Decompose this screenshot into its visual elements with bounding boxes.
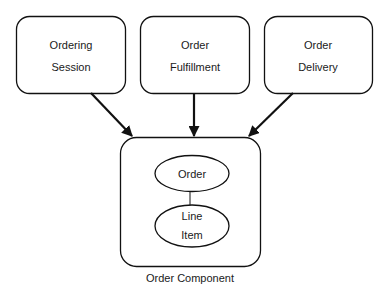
node-label-line1: Order bbox=[304, 39, 332, 51]
node-order[interactable]: Order bbox=[155, 156, 229, 192]
node-box bbox=[17, 17, 126, 94]
node-label-line2: Fulfillment bbox=[170, 61, 220, 73]
node-box bbox=[265, 17, 373, 94]
node-ordering-session[interactable]: Ordering Session bbox=[17, 17, 126, 94]
component-caption: Order Component bbox=[146, 272, 234, 284]
arrow-order-delivery-to-component bbox=[249, 93, 293, 136]
node-label-line1: Order bbox=[178, 168, 206, 180]
node-box bbox=[141, 17, 250, 94]
node-label-line2: Delivery bbox=[298, 61, 338, 73]
node-order-delivery[interactable]: Order Delivery bbox=[265, 17, 373, 94]
node-line-item[interactable]: Line Item bbox=[155, 205, 229, 247]
diagram-canvas: Ordering Session Order Fulfillment Order… bbox=[0, 0, 383, 295]
node-label-line1: Order bbox=[181, 39, 209, 51]
node-order-fulfillment[interactable]: Order Fulfillment bbox=[141, 17, 250, 94]
node-label-line2: Item bbox=[181, 229, 202, 241]
node-label-line2: Session bbox=[51, 61, 90, 73]
order-component[interactable]: Order Line Item bbox=[121, 138, 261, 267]
arrow-ordering-session-to-component bbox=[91, 93, 132, 136]
node-label-line1: Ordering bbox=[50, 39, 93, 51]
node-label-line1: Line bbox=[182, 210, 203, 222]
